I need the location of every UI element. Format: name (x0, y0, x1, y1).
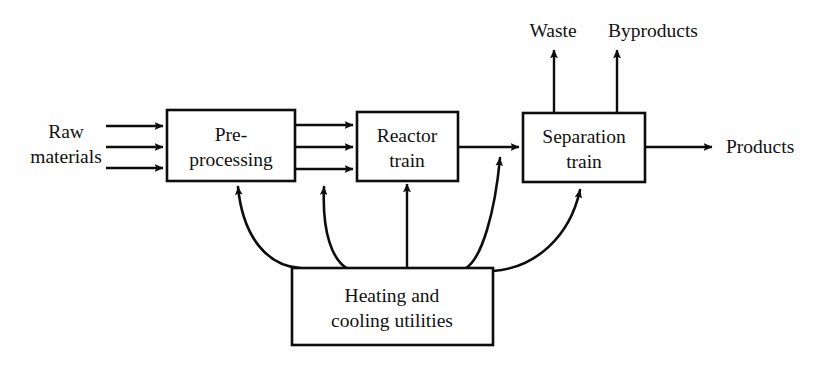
process-flow-diagram: Pre- processing Reactor train Separation… (0, 0, 816, 366)
heating-cooling-utilities-label-line1: Heating and (345, 285, 440, 306)
box-pre-processing[interactable]: Pre- processing (167, 110, 295, 181)
heating-cooling-utilities-label-line2: cooling utilities (331, 310, 453, 331)
box-separation-train[interactable]: Separation train (523, 113, 645, 182)
arrow-utilities-to-separation (493, 190, 580, 271)
pre-processing-label-line2: processing (189, 149, 273, 170)
raw-materials-streams (106, 126, 163, 168)
heating-cooling-utilities-box-outline (292, 268, 493, 345)
raw-materials-label-line2: materials (30, 146, 101, 167)
raw-materials-label-line1: Raw (48, 121, 84, 142)
pre-processing-box-outline (167, 110, 295, 181)
separation-train-label-line1: Separation (542, 126, 626, 147)
arrow-utilities-to-reactor-outlet (466, 158, 500, 268)
byproducts-label: Byproducts (608, 20, 698, 41)
products-label: Products (726, 136, 794, 157)
flow-diagram-canvas: Pre- processing Reactor train Separation… (0, 0, 816, 366)
arrow-utilities-to-preprocessing-inner (324, 187, 350, 270)
box-reactor-train[interactable]: Reactor train (357, 112, 458, 181)
reactor-train-label-line1: Reactor (377, 125, 438, 146)
pre-processing-label-line1: Pre- (215, 124, 248, 145)
separation-train-label-line2: train (566, 151, 602, 172)
label-raw-materials: Raw materials (30, 121, 101, 167)
waste-label: Waste (529, 20, 576, 41)
arrow-utilities-to-preprocessing-left (238, 187, 300, 268)
box-heating-cooling-utilities[interactable]: Heating and cooling utilities (292, 268, 493, 345)
preprocessing-to-reactor-streams (296, 125, 353, 169)
reactor-train-label-line2: train (389, 150, 425, 171)
